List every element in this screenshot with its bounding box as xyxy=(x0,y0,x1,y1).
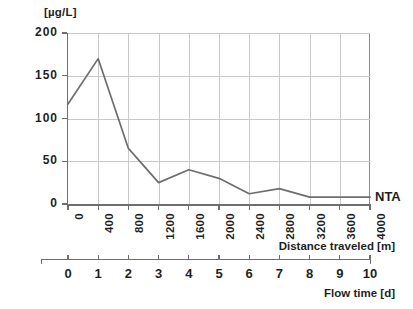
x-axis-tick-label: 0 xyxy=(73,213,85,220)
gridline-vertical xyxy=(219,33,220,204)
x-axis-tick-label: 2800 xyxy=(284,213,296,240)
x-axis-tick xyxy=(128,205,129,210)
flow-time-tick xyxy=(369,255,370,260)
y-axis-tick xyxy=(62,75,67,76)
flow-time-tick xyxy=(188,255,189,260)
x-axis-tick xyxy=(158,205,159,210)
flow-time-tick-label: 3 xyxy=(144,266,174,281)
flow-time-tick-label: 6 xyxy=(234,266,264,281)
flow-time-tick-label: 4 xyxy=(174,266,204,281)
gridline-vertical xyxy=(159,33,160,204)
flow-time-tick-label: 8 xyxy=(295,266,325,281)
gridline-vertical xyxy=(249,33,250,204)
flow-time-tick-label: 10 xyxy=(355,266,385,281)
gridline-vertical xyxy=(98,33,99,204)
flow-time-tick-label: 1 xyxy=(83,266,113,281)
x-axis-tick xyxy=(188,205,189,210)
flow-time-tick-label: 5 xyxy=(204,266,234,281)
flow-time-tick xyxy=(158,255,159,260)
flow-time-tick xyxy=(279,255,280,260)
y-axis-tick-label: 150 xyxy=(0,68,58,82)
flow-time-tick xyxy=(339,255,340,260)
y-axis-tick xyxy=(62,161,67,162)
flow-time-tick-label: 9 xyxy=(325,266,355,281)
flow-time-tick-label: 0 xyxy=(53,266,83,281)
y-axis-unit-label: [µg/L] xyxy=(44,6,77,18)
flow-time-tick xyxy=(128,255,129,260)
flow-time-tick-label: 7 xyxy=(264,266,294,281)
y-axis-line xyxy=(67,33,68,205)
x-axis-tick xyxy=(339,205,340,210)
flow-time-tick xyxy=(309,255,310,260)
flow-time-tick xyxy=(218,255,219,260)
gridline-vertical xyxy=(279,33,280,204)
x-axis-tick-label: 3600 xyxy=(345,213,357,240)
y-axis-tick xyxy=(62,118,67,119)
x-axis-tick xyxy=(279,205,280,210)
x-axis-tick xyxy=(249,205,250,210)
gridline-vertical xyxy=(128,33,129,204)
flow-time-tick xyxy=(249,255,250,260)
x-axis-tick-label: 1600 xyxy=(194,213,206,240)
x-axis-tick-label: 800 xyxy=(133,213,145,233)
y-axis-tick-label: 200 xyxy=(0,25,58,39)
gridline-vertical xyxy=(340,33,341,204)
x-axis-tick xyxy=(369,205,370,210)
flow-time-tick xyxy=(98,255,99,260)
series-label-nta: NTA xyxy=(375,189,401,204)
plot-area xyxy=(68,33,370,204)
flow-time-tick xyxy=(67,255,68,260)
x-axis-tick-label: 2000 xyxy=(224,213,236,240)
x-axis-tick xyxy=(98,205,99,210)
x-axis-tick xyxy=(309,205,310,210)
x-axis-tick-label: 2400 xyxy=(254,213,266,240)
x-axis-title: Distance traveled [m] xyxy=(279,240,395,252)
flow-time-axis-line xyxy=(41,259,371,260)
gridline-vertical xyxy=(189,33,190,204)
y-axis-tick xyxy=(62,32,67,33)
x-axis-tick xyxy=(218,205,219,210)
y-axis-tick-label: 50 xyxy=(0,153,58,167)
x-axis-tick-label: 1200 xyxy=(164,213,176,240)
x-axis-tick-label: 400 xyxy=(103,213,115,233)
chart-root: [µg/L] 050100150200 04008001200160020002… xyxy=(0,0,413,309)
flow-time-tick-label: 2 xyxy=(113,266,143,281)
x-axis-tick-label: 4000 xyxy=(375,213,387,240)
y-axis-tick-label: 100 xyxy=(0,111,58,125)
x-axis-tick xyxy=(67,205,68,210)
x-axis-tick-label: 3200 xyxy=(315,213,327,240)
flow-time-axis-title: Flow time [d] xyxy=(324,287,395,299)
y-axis-tick-label: 0 xyxy=(0,196,58,210)
flow-time-axis-cap-left xyxy=(41,259,42,264)
gridline-vertical xyxy=(310,33,311,204)
